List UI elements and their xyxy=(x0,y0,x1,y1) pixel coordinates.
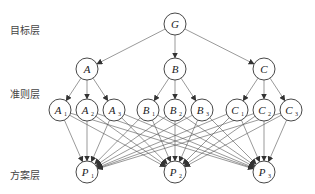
edge-G-A xyxy=(97,29,165,64)
edge-C-C1 xyxy=(243,78,258,100)
svg-text:A: A xyxy=(81,104,89,116)
svg-text:P: P xyxy=(169,166,177,178)
node-A2: A2 xyxy=(76,99,98,121)
edge-B3-P2 xyxy=(180,120,198,161)
svg-text:2: 2 xyxy=(179,111,182,117)
edge-B-B3 xyxy=(181,78,196,100)
svg-text:2: 2 xyxy=(268,111,271,117)
node-C2: C2 xyxy=(253,99,275,121)
svg-text:B: B xyxy=(170,104,177,116)
node-B1: B1 xyxy=(137,99,159,121)
ahp-hierarchy-diagram: 目标层 准则层 方案层 GABCA1A2A3B1B2B3C1C2C3P1P2P3 xyxy=(0,0,315,194)
edge-C-C3 xyxy=(270,78,285,100)
edge-A-A3 xyxy=(93,78,108,100)
svg-text:1: 1 xyxy=(64,111,67,117)
node-C1: C1 xyxy=(226,99,248,121)
node-A: A xyxy=(76,58,98,80)
svg-text:B: B xyxy=(172,63,179,75)
edge-B1-P2 xyxy=(152,120,170,161)
node-G: G xyxy=(164,13,186,35)
svg-text:A: A xyxy=(54,104,62,116)
edge-G-C xyxy=(185,29,254,64)
node-B3: B3 xyxy=(191,99,213,121)
edge-C3-P2 xyxy=(185,115,281,166)
svg-text:1: 1 xyxy=(152,111,155,117)
edge-A3-P1 xyxy=(92,120,110,161)
edge-A-A1 xyxy=(66,78,81,100)
edge-B-B1 xyxy=(154,78,169,100)
svg-text:P: P xyxy=(258,166,266,178)
node-C3: C3 xyxy=(280,99,302,121)
svg-text:B: B xyxy=(197,104,204,116)
svg-text:3: 3 xyxy=(295,111,298,117)
node-P2: P2 xyxy=(164,161,186,183)
svg-text:A: A xyxy=(83,63,91,75)
svg-text:3: 3 xyxy=(118,111,121,117)
node-A3: A3 xyxy=(103,99,125,121)
svg-text:1: 1 xyxy=(91,173,94,179)
svg-text:1: 1 xyxy=(241,111,244,117)
node-C: C xyxy=(253,58,275,80)
svg-text:2: 2 xyxy=(179,173,182,179)
svg-text:G: G xyxy=(171,18,179,30)
edge-B1-P1 xyxy=(95,118,140,164)
edge-A1-P1 xyxy=(64,120,82,161)
edge-C1-P3 xyxy=(241,120,259,161)
node-P1: P1 xyxy=(76,161,98,183)
edge-C3-P3 xyxy=(269,120,287,161)
hierarchy-graph: GABCA1A2A3B1B2B3C1C2C3P1P2P3 xyxy=(0,0,315,194)
svg-text:C: C xyxy=(231,104,239,116)
svg-text:2: 2 xyxy=(91,111,94,117)
svg-text:C: C xyxy=(258,104,266,116)
svg-text:B: B xyxy=(143,104,150,116)
node-B: B xyxy=(164,58,186,80)
svg-text:3: 3 xyxy=(206,111,209,117)
node-A1: A1 xyxy=(49,99,71,121)
svg-text:A: A xyxy=(108,104,116,116)
svg-text:3: 3 xyxy=(268,173,271,179)
node-P3: P3 xyxy=(253,161,275,183)
node-B2: B2 xyxy=(164,99,186,121)
svg-text:C: C xyxy=(260,63,268,75)
svg-text:P: P xyxy=(81,166,89,178)
svg-text:C: C xyxy=(285,104,293,116)
